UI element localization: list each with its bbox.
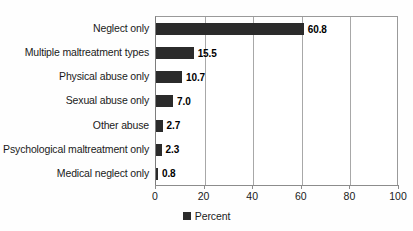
x-axis-line: [155, 185, 398, 186]
category-label: Neglect only: [0, 16, 152, 40]
x-tick-20: [204, 185, 205, 189]
x-tick-80: [349, 185, 350, 189]
category-label: Physical abuse only: [0, 64, 152, 88]
legend-swatch-percent: [183, 212, 191, 220]
x-tick-label-80: 80: [344, 190, 356, 202]
x-tick-40: [252, 185, 253, 189]
x-tick-60: [301, 185, 302, 189]
x-tick-label-20: 20: [198, 190, 210, 202]
category-label: Multiple maltreatment types: [0, 40, 152, 64]
x-tick-0: [155, 185, 156, 189]
category-label: Psychological maltreatment only: [0, 137, 152, 161]
x-tick-label-60: 60: [295, 190, 307, 202]
category-axis-labels: Neglect onlyMultiple maltreatment typesP…: [0, 16, 413, 185]
category-label: Medical neglect only: [0, 161, 152, 185]
legend-label-percent: Percent: [195, 210, 231, 222]
category-label: Sexual abuse only: [0, 88, 152, 112]
category-label: Other abuse: [0, 113, 152, 137]
x-tick-label-0: 0: [152, 190, 158, 202]
x-tick-label-40: 40: [246, 190, 258, 202]
chart-legend: Percent: [0, 210, 413, 222]
x-tick-100: [398, 185, 399, 189]
x-tick-label-100: 100: [389, 190, 407, 202]
bar-chart: 60.815.510.77.02.72.30.8 Neglect onlyMul…: [0, 0, 413, 231]
